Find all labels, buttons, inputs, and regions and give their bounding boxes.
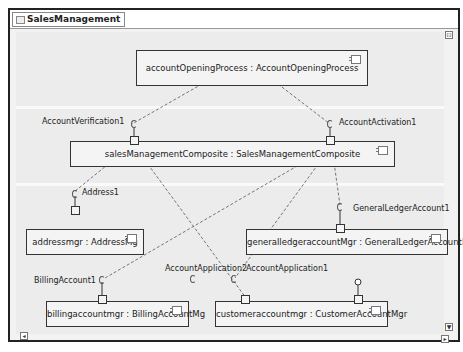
component-label: addressmgr : AddressMg xyxy=(27,237,143,247)
port-generalledgeraccount[interactable] xyxy=(336,224,345,233)
port-customer-service[interactable] xyxy=(241,295,250,304)
port-label-generalledgeraccount: GeneralLedgerAccount1 xyxy=(353,204,450,213)
port-label-address: Address1 xyxy=(82,188,119,197)
component-icon xyxy=(172,306,182,315)
component-billingaccountmgr[interactable]: billingaccountmgr : BillingAccountMg xyxy=(46,301,189,327)
component-icon xyxy=(431,234,441,243)
port-accountverification[interactable] xyxy=(130,136,139,145)
diagram-frame: SalesManagement accountOpeningProces xyxy=(8,8,460,342)
port-customer-reference[interactable] xyxy=(354,295,363,304)
socket-icon xyxy=(231,275,237,283)
component-generalledgeraccountmgr[interactable]: generalledgeraccountMgr : GeneralLedgerA… xyxy=(246,229,448,255)
port-label-billingaccount: BillingAccount1 xyxy=(34,276,96,285)
socket-icon xyxy=(72,190,78,198)
component-icon xyxy=(351,55,361,64)
port-label-accountapplication2: AccountApplication2 xyxy=(165,264,247,273)
socket-icon xyxy=(99,276,105,284)
component-icon xyxy=(127,234,137,243)
port-accountactivation[interactable] xyxy=(326,136,335,145)
component-label: billingaccountmgr : BillingAccountMg xyxy=(47,309,188,319)
collapse-button[interactable]: ⊡ xyxy=(445,31,453,39)
component-salesmanagementcomposite[interactable]: salesManagementComposite : SalesManageme… xyxy=(70,141,395,167)
component-label: salesManagementComposite : SalesManageme… xyxy=(71,149,394,159)
component-label: accountOpeningProcess : AccountOpeningPr… xyxy=(137,63,367,73)
port-label-accountapplication1: AccountApplication1 xyxy=(246,264,328,273)
socket-icon xyxy=(337,203,343,211)
scroll-down-button[interactable]: ▼ xyxy=(445,323,453,331)
scroll-left-button[interactable]: ◂ xyxy=(20,332,28,340)
component-label: generalledgeraccountMgr : GeneralLedgerA… xyxy=(247,237,447,247)
component-icon xyxy=(378,146,388,155)
port-label-accountverification: AccountVerification1 xyxy=(42,117,124,126)
port-billingaccount[interactable] xyxy=(98,295,107,304)
scroll-right-button[interactable]: ▸ xyxy=(441,335,449,343)
component-label: customeraccountmgr : CustomerAccountMgr xyxy=(216,309,387,319)
socket-icon xyxy=(190,275,196,283)
socket-icon xyxy=(131,120,137,128)
port-address[interactable] xyxy=(71,206,80,215)
component-icon xyxy=(371,306,381,315)
port-label-accountactivation: AccountActivation1 xyxy=(339,118,416,127)
component-accountopeningprocess[interactable]: accountOpeningProcess : AccountOpeningPr… xyxy=(136,50,368,86)
component-customeraccountmgr[interactable]: customeraccountmgr : CustomerAccountMgr xyxy=(215,301,388,327)
socket-icon xyxy=(327,120,333,128)
component-addressmgr[interactable]: addressmgr : AddressMg xyxy=(26,229,144,255)
